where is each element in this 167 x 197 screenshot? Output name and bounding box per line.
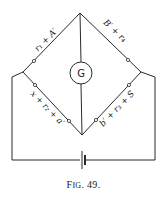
arm-label-bottom-right: b′ + r₃ + S <box>97 88 136 128</box>
galvanometer-wire-bottom <box>81 84 82 135</box>
terminal-bottom-right-upper <box>127 83 130 86</box>
galvanometer-wire-top <box>80 13 81 62</box>
caption-suffix: . 49. <box>81 179 100 190</box>
terminal-top-left <box>32 59 35 62</box>
figure-caption: FIG. 49. <box>0 179 167 190</box>
battery-wire-left <box>12 72 80 160</box>
arm-bottom-left-wire <box>23 72 82 135</box>
battery-circuit <box>12 72 155 169</box>
arm-bottom-right-wire <box>82 72 141 135</box>
terminal-bottom-left-upper <box>33 83 36 86</box>
arm-label-top-right: B′ + r₄ <box>101 17 129 45</box>
arm-top-left-wire <box>23 13 80 72</box>
arm-label-bottom-left: x + r₂ + a′ <box>29 88 67 127</box>
battery-wire-right <box>86 72 155 160</box>
galvanometer-branch: G <box>70 13 92 135</box>
terminal-top-right <box>126 58 129 61</box>
wheatstone-bridge-diagram: G r₁ + A′ B′ + r₄ x + r₂ + a′ b′ + r₃ + … <box>0 0 167 197</box>
galvanometer-label: G <box>77 68 85 79</box>
terminal-bottom-left-lower <box>67 119 70 122</box>
